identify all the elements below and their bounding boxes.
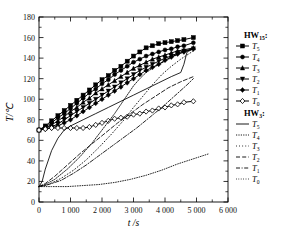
x-tick-label: 2 000 [93, 206, 111, 215]
y-tick-label: 60 [27, 136, 35, 145]
legend-entry-label: T3 [252, 63, 260, 74]
marker-triangle-up [106, 82, 110, 86]
marker-square [157, 42, 161, 46]
y-tick-label: 100 [23, 95, 35, 104]
marker-diamond [119, 84, 124, 89]
marker-diamond [81, 109, 86, 114]
marker-triangle-up [119, 74, 123, 78]
series-line [39, 154, 209, 187]
marker-diamond-open [87, 124, 92, 129]
series-group [37, 36, 210, 187]
marker-circle [157, 50, 161, 54]
legend: HW15:T5T4T3T2T1T0HW3:T5T4T3T2T1T0 [236, 30, 268, 185]
y-axis: 020406080100120140160180 [23, 13, 228, 207]
x-tick-label: 1 000 [62, 206, 80, 215]
marker-square [113, 68, 117, 72]
x-tick-label: 5 000 [188, 206, 206, 215]
legend-entry[interactable]: T0 [236, 96, 260, 107]
legend-entry-label: T4 [252, 130, 260, 141]
legend-entry-label: T0 [252, 96, 260, 107]
marker-square [163, 41, 167, 45]
temperature-vs-time-line-chart: 01 0002 0003 0004 0005 0006 000020406080… [0, 0, 292, 238]
legend-entry-label: T1 [252, 85, 260, 96]
y-tick-label: 80 [27, 116, 35, 125]
legend-entry-label: T2 [252, 74, 260, 85]
legend-entry[interactable]: T3 [236, 63, 260, 74]
legend-entry-label: T5 [252, 119, 260, 130]
legend-entry[interactable]: T4 [236, 130, 260, 141]
marker-circle [138, 57, 142, 61]
series-line [39, 38, 193, 131]
marker-square [241, 44, 245, 48]
legend-entry[interactable]: T2 [236, 74, 260, 85]
legend-entry[interactable]: T2 [236, 152, 260, 163]
marker-circle [144, 54, 148, 58]
marker-square [138, 50, 142, 54]
marker-diamond-open [240, 98, 245, 103]
marker-diamond-open [74, 125, 79, 130]
chart-figure: 01 0002 0003 0004 0005 0006 000020406080… [0, 0, 292, 238]
legend-entry-label: T4 [252, 52, 260, 63]
x-axis: 01 0002 0003 0004 0005 0006 000 [37, 17, 237, 215]
marker-diamond [93, 101, 98, 106]
marker-diamond-open [112, 116, 117, 121]
marker-triangle-up [112, 78, 116, 82]
marker-diamond [75, 113, 80, 118]
marker-diamond [68, 117, 73, 122]
marker-diamond-open [93, 122, 98, 127]
legend-entry[interactable]: T5 [236, 119, 260, 130]
legend-entry-label: T3 [252, 141, 260, 152]
legend-entry[interactable]: T0 [236, 174, 260, 185]
marker-diamond-open [191, 99, 196, 104]
marker-square [94, 83, 98, 87]
x-tick-label: 0 [37, 206, 41, 215]
y-tick-label: 180 [23, 13, 35, 22]
marker-square [169, 40, 173, 44]
legend-entry[interactable]: T3 [236, 141, 260, 152]
y-tick-label: 0 [31, 198, 35, 207]
marker-diamond-open [169, 103, 174, 108]
x-tick-label: 4 000 [156, 206, 174, 215]
marker-diamond [87, 105, 92, 110]
marker-triangle-up [125, 70, 129, 74]
x-tick-label: 3 000 [125, 206, 143, 215]
marker-circle [119, 68, 123, 72]
marker-diamond [112, 89, 117, 94]
marker-circle [113, 73, 117, 77]
marker-square [125, 59, 129, 63]
legend-entry[interactable]: T5 [236, 41, 260, 52]
marker-circle [125, 64, 129, 68]
marker-diamond-open [144, 109, 149, 114]
legend-entry-label: T5 [252, 41, 260, 52]
marker-diamond [240, 88, 245, 93]
marker-triangle-up [100, 87, 104, 91]
marker-diamond [138, 72, 143, 77]
marker-circle [163, 48, 167, 52]
marker-circle [106, 78, 110, 82]
marker-diamond-open [182, 100, 187, 105]
series-line [39, 77, 193, 187]
marker-triangle-up [94, 91, 98, 95]
legend-heading: HW3: [244, 108, 265, 119]
marker-diamond [131, 76, 136, 81]
legend-entry-label: T1 [252, 163, 260, 174]
marker-square [176, 39, 180, 43]
y-axis-title: T/℃ [5, 102, 15, 122]
y-tick-label: 140 [23, 54, 35, 63]
marker-circle [191, 41, 195, 45]
y-tick-label: 160 [23, 34, 35, 43]
marker-diamond-open [175, 102, 180, 107]
marker-circle [100, 82, 104, 86]
legend-entry[interactable]: T4 [236, 52, 260, 63]
legend-entry[interactable]: T1 [236, 85, 260, 96]
marker-square [106, 74, 110, 78]
marker-square [100, 78, 104, 82]
series-hw3-t0 [39, 154, 209, 187]
marker-circle [132, 60, 136, 64]
marker-diamond-open [100, 120, 105, 125]
marker-triangle-up [81, 100, 85, 104]
marker-diamond [106, 93, 111, 98]
marker-diamond-open [137, 111, 142, 116]
marker-square [144, 46, 148, 50]
legend-entry[interactable]: T1 [236, 163, 260, 174]
